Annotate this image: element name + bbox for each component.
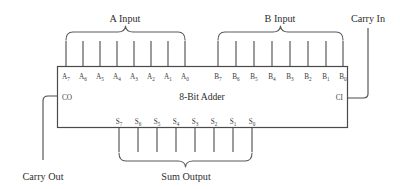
carry-out-pin-label: CO [62, 94, 72, 102]
b-bit-label-4: B4 [268, 73, 276, 82]
a-input-pin-lines [66, 41, 185, 67]
carry-in-pin-label: CI [336, 94, 344, 102]
a-input-bit-labels: A7 A6 A5 A4 A3 A2 A1 A0 [62, 73, 189, 82]
sum-output-bit-labels: S7 S6 S5 S4 S3 S2 S1 S0 [116, 118, 256, 127]
a-bit-label-0: A0 [181, 73, 189, 82]
b-bit-label-5: B5 [250, 73, 258, 82]
s-bit-label-0: S0 [249, 118, 256, 127]
s-bit-label-3: S3 [192, 118, 199, 127]
s-bit-label-5: S5 [154, 118, 161, 127]
b-input-brace [218, 26, 343, 40]
a-bit-label-4: A4 [113, 73, 121, 82]
b-bit-label-6: B6 [232, 73, 240, 82]
b-bit-label-1: B1 [322, 73, 330, 82]
a-bit-label-3: A3 [130, 73, 138, 82]
s-bit-label-6: S6 [135, 118, 142, 127]
a-bit-label-2: A2 [147, 73, 155, 82]
a-bit-label-1: A1 [164, 73, 172, 82]
sum-output-brace [119, 153, 252, 167]
s-bit-label-2: S2 [211, 118, 218, 127]
sum-output-group-label: Sum Output [161, 171, 211, 182]
adder-diagram: 8-Bit Adder CO CI [0, 0, 400, 189]
b-bit-label-3: B3 [286, 73, 294, 82]
b-bit-label-2: B2 [304, 73, 312, 82]
s-bit-label-7: S7 [116, 118, 123, 127]
s-bit-label-4: S4 [173, 118, 180, 127]
carry-out-group-label: Carry Out [22, 171, 63, 182]
b-bit-label-0: B0 [339, 73, 347, 82]
carry-in-group-label: Carry In [351, 13, 385, 24]
carry-in-wire [348, 28, 369, 98]
adder-block-label: 8-Bit Adder [179, 91, 225, 102]
b-input-bit-labels: B7 B6 B5 B4 B3 B2 B1 B0 [214, 73, 347, 82]
b-input-pin-lines [218, 41, 343, 67]
s-bit-label-1: S1 [230, 118, 237, 127]
a-input-brace [66, 26, 185, 40]
a-bit-label-5: A5 [96, 73, 104, 82]
sum-output-pin-lines [119, 128, 252, 153]
a-bit-label-7: A7 [62, 73, 70, 82]
b-input-group-label: B Input [265, 13, 296, 24]
carry-out-wire [43, 96, 58, 160]
b-bit-label-7: B7 [214, 73, 222, 82]
a-input-group-label: A Input [110, 13, 141, 24]
a-bit-label-6: A6 [79, 73, 87, 82]
adder-schematic: 8-Bit Adder CO CI [0, 0, 400, 189]
